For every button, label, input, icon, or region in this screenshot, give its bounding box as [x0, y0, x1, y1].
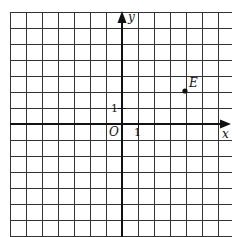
origin-label: O — [109, 125, 119, 139]
x-axis — [10, 120, 231, 129]
coordinate-plane: y x O 1 1 E — [0, 0, 232, 237]
y-tick-label: 1 — [111, 102, 118, 115]
y-axis-label: y — [127, 10, 135, 24]
x-tick-label: 1 — [134, 126, 141, 139]
x-axis-label: x — [222, 127, 229, 141]
point-marker-icon — [182, 88, 187, 93]
point-e: E — [182, 76, 198, 94]
point-label: E — [188, 76, 198, 90]
